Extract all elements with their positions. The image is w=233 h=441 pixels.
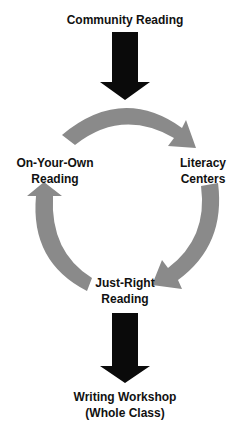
node-literacy-centers-line1: Literacy	[170, 155, 233, 171]
node-on-your-own-reading: On-Your-Own Reading	[10, 155, 100, 187]
node-just-right-line1: Just-Right	[75, 275, 175, 291]
node-writing-workshop-line2: (Whole Class)	[55, 405, 195, 421]
node-writing-workshop-line1: Writing Workshop	[55, 389, 195, 405]
arc-arrow-top-icon	[62, 108, 196, 148]
top-down-arrow-icon	[100, 32, 150, 100]
node-just-right-line2: Reading	[75, 291, 175, 307]
node-just-right-reading: Just-Right Reading	[75, 275, 175, 307]
arc-arrow-right-icon	[152, 183, 219, 289]
diagram-canvas	[0, 0, 233, 441]
node-on-your-own-line2: Reading	[10, 171, 100, 187]
node-on-your-own-line1: On-Your-Own	[10, 155, 100, 171]
bottom-down-arrow-icon	[100, 313, 150, 383]
node-community-reading-line1: Community Reading	[0, 12, 233, 28]
node-community-reading: Community Reading	[0, 12, 233, 28]
node-literacy-centers-line2: Centers	[170, 171, 233, 187]
node-literacy-centers: Literacy Centers	[170, 155, 233, 187]
node-writing-workshop: Writing Workshop (Whole Class)	[55, 389, 195, 421]
